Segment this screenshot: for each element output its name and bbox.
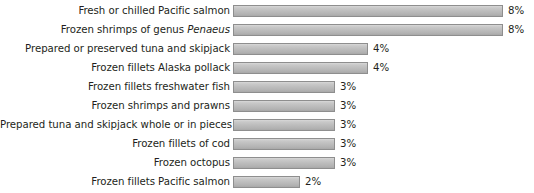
category-label: Prepared tuna and skipjack whole or in p… <box>0 119 233 131</box>
category-label-text: Frozen fillets of cod <box>132 138 230 149</box>
bar-value-label: 4% <box>368 43 389 55</box>
bar-area: 4% <box>233 39 534 58</box>
bar <box>233 100 335 112</box>
bar-area: 4% <box>233 58 534 77</box>
category-label: Frozen fillets freshwater fish <box>0 81 233 93</box>
bar <box>233 24 503 36</box>
horizontal-bar-chart: Fresh or chilled Pacific salmon8%Frozen … <box>0 0 534 193</box>
category-label-text: Frozen fillets freshwater fish <box>88 81 230 92</box>
bar-value-label: 8% <box>503 24 524 36</box>
bar <box>233 157 335 169</box>
bar-area: 8% <box>233 1 534 20</box>
bar-value-label: 8% <box>503 5 524 17</box>
category-label-emphasis: Penaeus <box>187 24 230 35</box>
bar-value-label: 3% <box>335 81 356 93</box>
category-label: Frozen shrimps of genus Penaeus <box>0 24 233 36</box>
chart-row: Prepared or preserved tuna and skipjack4… <box>0 39 534 58</box>
chart-row: Frozen shrimps of genus Penaeus8% <box>0 20 534 39</box>
bar <box>233 119 335 131</box>
category-label-text: Prepared or preserved tuna and skipjack <box>25 43 230 54</box>
category-label-text: Prepared tuna and skipjack whole or in p… <box>0 119 232 130</box>
bar-area: 8% <box>233 20 534 39</box>
chart-row: Frozen fillets Pacific salmon2% <box>0 172 534 191</box>
category-label: Frozen fillets Pacific salmon <box>0 176 233 188</box>
bar-value-label: 3% <box>335 138 356 150</box>
chart-row: Frozen fillets freshwater fish3% <box>0 77 534 96</box>
chart-row: Frozen fillets of cod3% <box>0 134 534 153</box>
bar-area: 3% <box>233 134 534 153</box>
category-label-text: Frozen octopus <box>154 157 230 168</box>
bar-value-label: 4% <box>368 62 389 74</box>
bar <box>233 5 503 17</box>
bar-value-label: 3% <box>335 100 356 112</box>
category-label-text: Fresh or chilled Pacific salmon <box>78 5 230 16</box>
chart-row: Frozen fillets Alaska pollack4% <box>0 58 534 77</box>
bar-value-label: 3% <box>335 119 356 131</box>
category-label: Frozen octopus <box>0 157 233 169</box>
chart-row: Frozen shrimps and prawns3% <box>0 96 534 115</box>
category-label-text: Frozen shrimps of genus <box>61 24 187 35</box>
category-label-text: Frozen fillets Pacific salmon <box>91 176 230 187</box>
bar-area: 3% <box>233 96 534 115</box>
category-label: Frozen fillets of cod <box>0 138 233 150</box>
bar-value-label: 2% <box>300 176 321 188</box>
chart-row: Prepared tuna and skipjack whole or in p… <box>0 115 534 134</box>
bar-value-label: 3% <box>335 157 356 169</box>
bar <box>233 62 368 74</box>
category-label: Frozen shrimps and prawns <box>0 100 233 112</box>
category-label: Prepared or preserved tuna and skipjack <box>0 43 233 55</box>
bar <box>233 138 335 150</box>
chart-row: Fresh or chilled Pacific salmon8% <box>0 1 534 20</box>
bar-area: 3% <box>233 153 534 172</box>
bar <box>233 81 335 93</box>
bar <box>233 176 300 188</box>
category-label: Fresh or chilled Pacific salmon <box>0 5 233 17</box>
category-label-text: Frozen fillets Alaska pollack <box>91 62 230 73</box>
bar-area: 3% <box>233 115 534 134</box>
bar <box>233 43 368 55</box>
chart-row: Frozen octopus3% <box>0 153 534 172</box>
bar-area: 3% <box>233 77 534 96</box>
category-label: Frozen fillets Alaska pollack <box>0 62 233 74</box>
category-label-text: Frozen shrimps and prawns <box>92 100 231 111</box>
bar-area: 2% <box>233 172 534 191</box>
